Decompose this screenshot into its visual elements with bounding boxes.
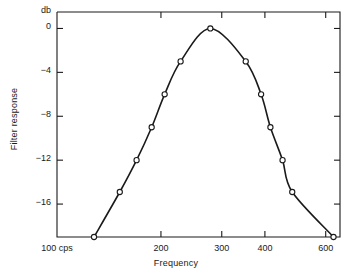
x-axis-title: Frequency [0,258,352,268]
data-point-10 [280,158,285,163]
y-tick-label-1: −4 [13,65,51,75]
data-point-2 [134,158,139,163]
plot-area [0,0,352,275]
y-tick-label-3: −12 [13,153,51,163]
data-point-1 [117,189,122,194]
data-point-7 [243,59,248,64]
data-point-4 [162,92,167,97]
x-tick-label-1: 200 [126,243,196,253]
x-tick-label-3: 400 [230,243,300,253]
data-point-5 [178,59,183,64]
axis-frame [57,12,340,237]
data-point-11 [290,189,295,194]
y-axis-unit-label: db [13,5,51,15]
y-tick-label-4: −16 [13,197,51,207]
filter-response-chart: Filter response db Frequency 0−4−8−12−16… [0,0,352,275]
data-point-markers [91,26,336,240]
data-point-6 [208,26,213,31]
x-tick-label-4: 600 [291,243,352,253]
data-point-3 [149,125,154,130]
response-curve [94,28,333,237]
y-tick-label-2: −8 [13,109,51,119]
data-point-8 [259,92,264,97]
data-point-12 [331,234,336,239]
y-tick-label-0: 0 [13,21,51,31]
data-point-9 [268,125,273,130]
x-tick-label-0: 100 cps [22,243,92,253]
y-tick-marks [57,28,340,204]
data-point-0 [91,234,96,239]
